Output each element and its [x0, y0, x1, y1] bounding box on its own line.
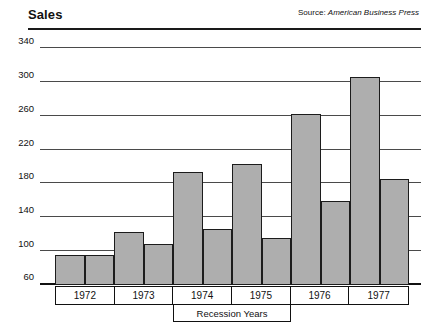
title-divider [28, 28, 421, 30]
year-cell-1973: 1973 [115, 287, 174, 304]
year-cell-1975: 1975 [232, 287, 291, 304]
bar-group [40, 48, 421, 285]
bar-1972-bar-b [85, 255, 115, 285]
y-axis-tick-label: 260 [18, 104, 34, 114]
year-axis: 197219731974197519761977 [55, 286, 409, 305]
bar-1975-bar-b [262, 238, 292, 285]
recession-years-annotation: Recession Years [173, 305, 291, 322]
y-axis-tick-label: 220 [18, 138, 34, 148]
bar-1977-bar-b [380, 179, 410, 285]
y-axis-tick-label: 340 [18, 36, 34, 46]
page-title: Sales [28, 7, 62, 22]
bar-1977-bar-a [350, 77, 380, 285]
source-value: American Business Press [328, 8, 419, 17]
chart-header: Sales Source: American Business Press [0, 0, 427, 30]
bar-1974-bar-b [203, 229, 233, 285]
y-axis-tick-label: 140 [18, 205, 34, 215]
source-label: Source: [298, 8, 326, 17]
plot-area: 34030026022018014010060 [40, 48, 421, 285]
year-cell-1972: 1972 [56, 287, 115, 304]
recession-years-label: Recession Years [197, 308, 268, 319]
bar-1973-bar-a [114, 232, 144, 285]
y-axis-tick-label: 300 [18, 70, 34, 80]
source-note: Source: American Business Press [298, 8, 419, 17]
y-axis-tick-label: 100 [18, 239, 34, 249]
y-axis-tick-label: 60 [23, 272, 34, 282]
bar-1975-bar-a [232, 164, 262, 285]
bar-1972-bar-a [55, 255, 85, 285]
year-cell-1977: 1977 [349, 287, 408, 304]
bar-1976-bar-a [291, 114, 321, 285]
year-cell-1976: 1976 [291, 287, 350, 304]
bar-1976-bar-b [321, 201, 351, 285]
year-cell-1974: 1974 [173, 287, 232, 304]
y-axis-tick-label: 180 [18, 171, 34, 181]
bar-1973-bar-b [144, 244, 174, 285]
bar-1974-bar-a [173, 172, 203, 285]
